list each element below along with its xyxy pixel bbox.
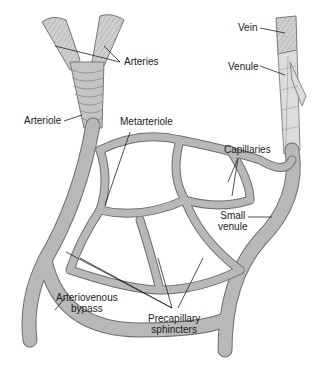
label-small-venule-line1: Small — [218, 210, 247, 221]
label-small-venule-line2: venule — [218, 221, 247, 232]
label-arteriovenous-bypass: Arteriovenous bypass — [56, 292, 118, 314]
label-precap-line1: Precapillary — [148, 313, 200, 324]
label-arteries: Arteries — [124, 56, 158, 67]
label-venule: Venule — [228, 61, 259, 72]
label-small-venule: Small venule — [218, 210, 247, 232]
label-vein: Vein — [238, 22, 257, 33]
label-av-bypass-line2: bypass — [56, 303, 118, 314]
vein-illustration — [276, 16, 306, 154]
label-capillaries: Capillaries — [224, 144, 271, 155]
label-precapillary-sphincters: Precapillary sphincters — [148, 313, 200, 335]
label-av-bypass-line1: Arteriovenous — [56, 292, 118, 303]
label-arteriole: Arteriole — [24, 115, 61, 126]
label-metarteriole: Metarteriole — [120, 116, 173, 127]
label-precap-line2: sphincters — [148, 324, 200, 335]
arteries-illustration — [42, 15, 124, 128]
